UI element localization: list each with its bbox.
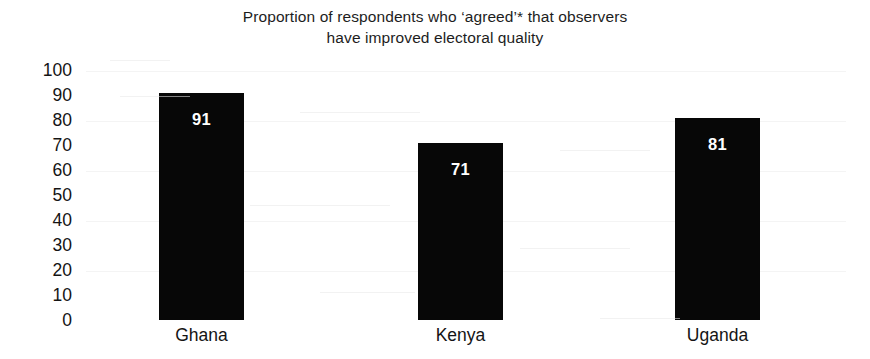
y-axis-tick-80: 80 bbox=[12, 112, 72, 130]
y-axis-tick-0: 0 bbox=[12, 312, 72, 330]
x-axis-label-kenya: Kenya bbox=[390, 326, 531, 345]
bar-value-ghana: 91 bbox=[159, 111, 244, 128]
bar-kenya[interactable]: 71 bbox=[418, 143, 503, 320]
x-axis-label-ghana: Ghana bbox=[131, 326, 272, 345]
y-axis-tick-40: 40 bbox=[12, 212, 72, 230]
y-axis-tick-50: 50 bbox=[12, 187, 72, 205]
y-axis-tick-60: 60 bbox=[12, 162, 72, 180]
y-axis-tick-70: 70 bbox=[12, 137, 72, 155]
bar-uganda[interactable]: 81 bbox=[675, 118, 760, 320]
x-axis-label-uganda: Uganda bbox=[647, 326, 788, 345]
y-axis-tick-90: 90 bbox=[12, 87, 72, 105]
y-axis-tick-30: 30 bbox=[12, 237, 72, 255]
bar-ghana[interactable]: 91 bbox=[159, 93, 244, 320]
bar-value-uganda: 81 bbox=[675, 136, 760, 153]
bar-chart-figure: Proportion of respondents who ‘agreed’* … bbox=[0, 0, 870, 359]
gridline-100 bbox=[86, 71, 846, 72]
y-axis-tick-100: 100 bbox=[12, 62, 72, 80]
plot-area: 100 90 80 70 60 50 40 30 20 10 0 91 71 8… bbox=[0, 0, 870, 359]
bar-value-kenya: 71 bbox=[418, 161, 503, 178]
y-axis-tick-20: 20 bbox=[12, 262, 72, 280]
y-axis-tick-10: 10 bbox=[12, 287, 72, 305]
